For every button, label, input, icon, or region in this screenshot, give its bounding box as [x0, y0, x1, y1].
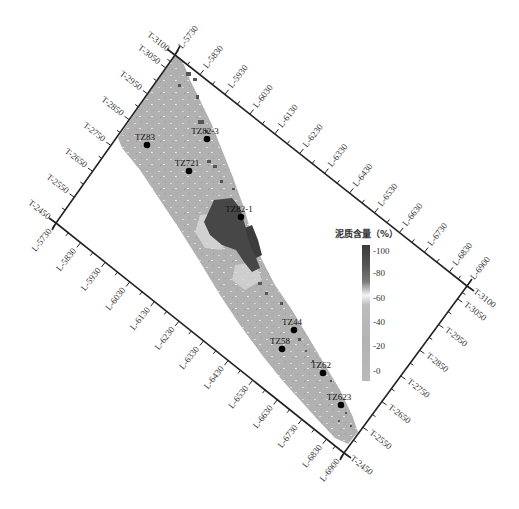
well-marker	[320, 370, 327, 377]
well-label: TZ623	[327, 392, 352, 402]
bottom-axis-label: L-6900	[317, 456, 341, 483]
bottom-axis-label: L-6430	[202, 363, 226, 390]
bottom-axis-label: L-6030	[103, 285, 127, 312]
well-marker	[338, 402, 345, 409]
top-axis-label: L-6830	[450, 240, 474, 267]
well-marker	[204, 136, 211, 143]
colorbar-tick: -40	[373, 318, 385, 327]
well-marker	[291, 327, 298, 334]
top-axis-label: L-5830	[201, 43, 225, 70]
top-axis-label: L-6900	[468, 254, 492, 281]
data-area	[118, 55, 358, 444]
well-marker	[144, 142, 151, 149]
legend-title: 泥质含量（%）	[335, 227, 398, 240]
bottom-axis-label: L-6230	[152, 324, 176, 351]
top-axis-label: L-6130	[276, 102, 300, 129]
bottom-axis-label: L-6730	[275, 422, 299, 449]
right-axis-label: T-2450	[349, 453, 376, 477]
bottom-axis-label: L-6530	[226, 383, 250, 410]
top-axis-label: L-6430	[350, 161, 374, 188]
bottom-axis-label: L-5930	[79, 265, 103, 292]
right-axis-label: T-2950	[443, 325, 470, 349]
left-axis-label: T-2650	[63, 146, 90, 170]
well-marker	[279, 346, 286, 353]
well-label: TZ82-1	[225, 204, 253, 214]
well-label: TZ83	[135, 132, 155, 142]
left-axis-label: T-2850	[99, 94, 126, 118]
top-axis-label: L-5730	[176, 23, 200, 50]
bottom-axis-label: L-6330	[177, 344, 201, 371]
colorbar-tick: -20	[373, 342, 385, 351]
top-axis-label: L-6530	[375, 181, 399, 208]
top-axis-label: L-6330	[326, 141, 350, 168]
left-axis-label: T-2550	[45, 172, 72, 196]
well-marker	[186, 168, 193, 175]
well-label: TZ721	[175, 158, 200, 168]
colorbar-tick: -0	[373, 367, 381, 376]
well-label: TZ82-3	[191, 126, 219, 136]
right-axis-label: T-2650	[386, 402, 413, 426]
top-axis-label: L-6630	[400, 201, 424, 228]
well-marker	[238, 214, 245, 221]
colorbar-tick: -100	[373, 247, 390, 256]
colorbar-legend: 泥质含量（%） -100 -80 -60 -40 -20 -0	[335, 227, 425, 387]
bottom-axis-label: L-5830	[54, 246, 78, 273]
colorbar-tick: -80	[373, 269, 385, 278]
right-axis-label: T-2850	[424, 350, 451, 374]
bottom-axis-label: L-5730	[29, 226, 53, 253]
well-label: TZ58	[270, 336, 290, 346]
seismic-attribute-map: L-5730L-5830L-5930L-6030L-6130L-6230L-63…	[0, 0, 519, 509]
top-axis-label: L-6030	[251, 82, 275, 109]
colorbar	[362, 245, 370, 381]
well-label: TZ62	[311, 360, 331, 370]
left-axis-label: T-2450	[26, 198, 53, 222]
top-axis-label: L-6730	[425, 220, 449, 247]
axis-tick-labels: L-5730L-5830L-5930L-6030L-6130L-6230L-63…	[26, 23, 498, 483]
bottom-axis-label: L-6130	[128, 305, 152, 332]
bottom-axis-label: L-6630	[251, 403, 275, 430]
right-axis-label: T-2550	[367, 428, 394, 452]
left-axis-label: T-2950	[118, 68, 145, 92]
colorbar-tick: -60	[373, 294, 385, 303]
top-axis-label: L-6230	[301, 122, 325, 149]
well-label: TZ44	[282, 317, 302, 327]
left-axis-label: T-2750	[81, 120, 108, 144]
top-axis-label: L-5930	[226, 63, 250, 90]
bottom-axis-label: L-6830	[300, 442, 324, 469]
